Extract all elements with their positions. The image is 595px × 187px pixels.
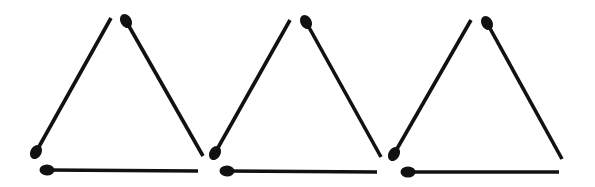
matchstick-shaft: [215, 20, 290, 153]
matchstick-right[interactable]: [479, 14, 562, 159]
matchstick-head: [118, 12, 135, 30]
matchstick-shaft: [36, 18, 111, 152]
matchstick-head: [479, 14, 496, 32]
matchstick-left[interactable]: [207, 20, 290, 162]
matchstick-head: [401, 167, 416, 178]
matchstick-head: [385, 145, 402, 163]
matchstick-left[interactable]: [28, 18, 111, 161]
matchstick-shaft: [227, 171, 377, 172]
triangle-3: [385, 14, 562, 178]
matchstick-head: [207, 144, 224, 162]
triangle-2: [207, 13, 381, 177]
matchstick-shaft: [47, 170, 198, 171]
matchstick-shaft: [394, 20, 471, 154]
matchstick-shaft: [306, 22, 381, 157]
matchstick-left[interactable]: [385, 20, 471, 163]
matchstick-bottom[interactable]: [39, 164, 198, 175]
matchstick-head: [298, 13, 315, 31]
matchstick-shaft: [126, 21, 203, 156]
matchstick-bottom[interactable]: [401, 167, 560, 178]
matchstick-head: [39, 164, 54, 175]
matchstick-shaft: [487, 23, 562, 159]
triangle-1: [28, 12, 203, 176]
matchstick-puzzle: [0, 0, 595, 187]
matchstick-head: [28, 143, 45, 161]
matchstick-right[interactable]: [298, 13, 381, 157]
matchstick-head: [219, 165, 234, 176]
matchstick-right[interactable]: [118, 12, 203, 156]
matchstick-bottom[interactable]: [219, 165, 377, 176]
